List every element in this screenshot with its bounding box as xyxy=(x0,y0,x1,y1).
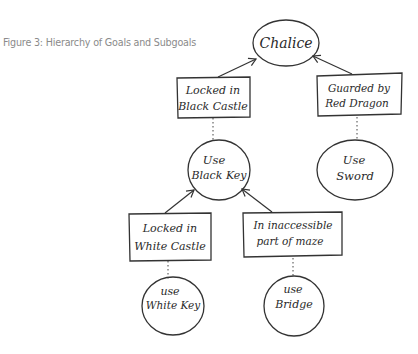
node-use-sword-line2: Sword xyxy=(336,169,374,183)
node-inaccessible-maze-line2: part of maze xyxy=(256,235,323,247)
node-use-white-key-line1: use xyxy=(160,285,180,298)
node-use-black-key: Use Black Key xyxy=(188,140,250,200)
edge-maze-to-black-key xyxy=(242,189,272,212)
node-inaccessible-maze-line1: In inaccessible xyxy=(252,219,332,231)
node-locked-white-castle-line2: White Castle xyxy=(134,240,206,253)
node-locked-black-castle-line1: Locked in xyxy=(185,84,240,97)
node-locked-black-castle-line2: Black Castle xyxy=(177,100,248,113)
node-use-bridge-line2: Bridge xyxy=(274,298,313,311)
node-inaccessible-maze: In inaccessible part of maze xyxy=(243,212,342,257)
edge-white-castle-to-black-key xyxy=(165,190,194,213)
edge-red-dragon-to-chalice xyxy=(313,56,352,74)
node-locked-white-castle-line1: Locked in xyxy=(142,222,197,235)
node-guarded-red-dragon-line1: Guarded by xyxy=(328,82,391,94)
node-chalice-label: Chalice xyxy=(259,35,312,51)
node-guarded-red-dragon-line2: Red Dragon xyxy=(324,97,389,109)
goal-hierarchy-diagram: Chalice Locked in Black Castle Guarded b… xyxy=(0,0,418,354)
edge-black-castle-to-chalice xyxy=(218,59,256,77)
node-use-black-key-line2: Black Key xyxy=(190,169,247,182)
node-use-white-key-line2: White Key xyxy=(146,299,201,311)
node-use-bridge: use Bridge xyxy=(264,276,324,336)
node-guarded-red-dragon: Guarded by Red Dragon xyxy=(317,73,402,116)
node-locked-black-castle: Locked in Black Castle xyxy=(177,77,250,118)
node-locked-white-castle: Locked in White Castle xyxy=(129,213,211,261)
node-use-sword-line1: Use xyxy=(343,153,366,167)
node-chalice: Chalice xyxy=(253,20,319,66)
node-use-black-key-line1: Use xyxy=(203,153,226,167)
node-use-white-key: use White Key xyxy=(142,277,204,335)
node-use-bridge-line1: use xyxy=(283,283,303,296)
node-use-sword: Use Sword xyxy=(317,140,393,200)
